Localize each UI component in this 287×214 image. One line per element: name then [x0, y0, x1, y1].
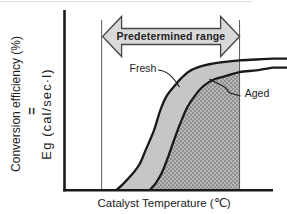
- figure-root: Conversion efficiency (%) = Eg (cal/sec·…: [0, 0, 287, 214]
- y-axis-sub-label: Eg (cal/sec·l): [40, 68, 53, 159]
- plot-generated-layer: [102, 17, 287, 191]
- aged-curve-label: Aged: [245, 88, 270, 99]
- y-axis-equals-sign: =: [25, 107, 38, 115]
- predetermined-range-label: Predetermined range: [117, 31, 226, 42]
- fresh-curve-label: Fresh: [130, 63, 157, 74]
- y-axis-label: Conversion efficiency (%): [10, 36, 22, 172]
- x-axis-label: Catalyst Temperature (℃): [98, 198, 231, 210]
